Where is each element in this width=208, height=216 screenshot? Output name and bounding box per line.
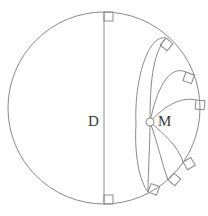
- point-m-label: M: [158, 114, 171, 129]
- point-m-marker: [146, 118, 154, 126]
- orthogonal-arc: [136, 124, 148, 192]
- geometry-figure: [0, 0, 208, 216]
- right-angle-mark-group: [104, 12, 205, 204]
- right-angle-mark: [183, 72, 195, 84]
- right-angle-mark: [104, 195, 113, 204]
- right-angle-mark: [168, 173, 181, 186]
- right-angle-mark: [104, 12, 113, 21]
- diameter-label: D: [88, 114, 99, 129]
- orthogonal-arc: [148, 122, 150, 192]
- right-angle-mark: [148, 184, 160, 196]
- orthogonal-arc: [150, 99, 196, 122]
- orthogonal-arc: [150, 122, 168, 180]
- diagram-canvas: D M: [0, 0, 208, 216]
